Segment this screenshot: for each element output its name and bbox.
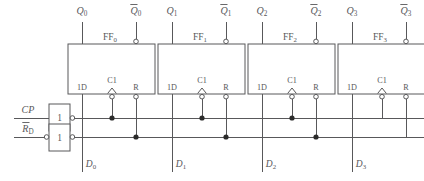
clk-bubble-2 <box>290 94 295 99</box>
pin-label-d-2: 1D <box>257 83 267 92</box>
clk-bubble-0 <box>110 94 115 99</box>
base: FF <box>283 32 294 42</box>
q-label-0: Q0 <box>77 5 88 18</box>
data-label-1-text: D1 <box>175 159 186 170</box>
subscript: 2 <box>264 10 268 18</box>
reset-bubble-1 <box>224 94 229 99</box>
flipflop-name-3-text: FF3 <box>373 32 388 43</box>
subscript: 2 <box>294 36 298 43</box>
qbar-label-2: Q2 <box>310 5 322 19</box>
qbar-bubble-3 <box>404 39 409 44</box>
q-label-1-text: Q1 <box>167 5 178 18</box>
pin-label-r-1: R <box>223 83 229 92</box>
qbar-label-1-text: Q1 <box>221 5 232 18</box>
base: D <box>175 159 183 169</box>
pin-label-clk-0: C1 <box>107 76 117 85</box>
subscript: 3 <box>354 10 358 18</box>
subscript: 1 <box>174 10 178 18</box>
subscript: 1 <box>204 36 207 43</box>
flipflop-name-3: FF3 <box>373 32 388 43</box>
flipflop-name-1-text: FF1 <box>193 32 207 43</box>
qbar-label-3-text: Q3 <box>401 5 412 18</box>
qbar-label-3: Q3 <box>400 5 412 19</box>
clock-input-label: CP <box>22 104 35 115</box>
clock-buffer-output-bubble <box>70 116 75 121</box>
clk-junction-0 <box>109 115 114 120</box>
flipflop-name-2-text: FF2 <box>283 32 298 43</box>
data-label-2: D2 <box>265 159 277 170</box>
gate-label-clock-buffer: 1 <box>57 113 62 123</box>
pin-label-r-2: R <box>313 83 319 92</box>
qbar-label-0-text: Q0 <box>131 5 142 18</box>
reset-bubble-0 <box>134 94 139 99</box>
gate-label-reset-buffer: 1 <box>57 133 62 143</box>
base: FF <box>193 32 204 42</box>
subscript: 1 <box>183 163 186 170</box>
reset-bubble-2 <box>314 94 319 99</box>
flipflop-name-2: FF2 <box>283 32 298 43</box>
base: D <box>85 159 93 169</box>
flipflop-name-1: FF1 <box>193 32 207 43</box>
clock-input-label-text: CP <box>22 104 35 115</box>
data-label-0-text: D0 <box>85 159 97 170</box>
base: FF <box>103 32 114 42</box>
data-label-2-text: D2 <box>265 159 277 170</box>
reset-input-label-text: RD <box>21 123 33 136</box>
reset-input-label: RD <box>21 123 33 137</box>
subscript: 0 <box>114 36 118 43</box>
qbar-bubble-0 <box>134 39 139 44</box>
clk-bubble-1 <box>200 94 205 99</box>
q-label-1: Q1 <box>167 5 178 18</box>
subscript: 0 <box>93 163 97 170</box>
base: D <box>355 159 363 169</box>
subscript: 2 <box>273 163 277 170</box>
qbar-label-0: Q0 <box>130 5 142 19</box>
reset-junction-0 <box>133 134 138 139</box>
subscript: 3 <box>384 36 388 43</box>
subscript: 3 <box>408 10 412 18</box>
subscript: 0 <box>84 10 88 18</box>
qbar-bubble-1 <box>224 39 229 44</box>
base: CP <box>22 104 35 115</box>
qbar-label-1: Q1 <box>220 5 232 19</box>
reset-junction-2 <box>313 134 318 139</box>
clk-junction-2 <box>289 115 294 120</box>
subscript: 0 <box>138 10 142 18</box>
qbar-bubble-2 <box>314 39 319 44</box>
junction-layer <box>109 115 318 139</box>
pin-label-d-3: 1D <box>347 83 357 92</box>
clk-bubble-3 <box>380 94 385 99</box>
reset-buffer-input-bubble <box>44 135 49 140</box>
data-label-3: D3 <box>355 159 367 170</box>
reset-buffer-output-bubble <box>70 135 75 140</box>
pin-label-d-0: 1D <box>77 83 87 92</box>
circuit-diagram: Q0Q0FF01DC1RD0Q1Q1FF11DC1RD1Q2Q2FF21DC1R… <box>0 0 424 181</box>
pin-label-clk-2: C1 <box>287 76 297 85</box>
q-label-2-text: Q2 <box>257 5 268 18</box>
pin-label-clk-1: C1 <box>197 76 207 85</box>
pin-label-clk-3: C1 <box>377 76 387 85</box>
flipflop-name-0-text: FF0 <box>103 32 118 43</box>
data-label-3-text: D3 <box>355 159 367 170</box>
reset-junction-1 <box>223 134 228 139</box>
pin-label-d-1: 1D <box>167 83 177 92</box>
base: R <box>21 123 28 134</box>
schematic-canvas: Q0Q0FF01DC1RD0Q1Q1FF11DC1RD1Q2Q2FF21DC1R… <box>0 0 424 181</box>
component-layer <box>49 44 424 151</box>
subscript: 3 <box>363 163 367 170</box>
subscript: 2 <box>318 10 322 18</box>
base: D <box>265 159 273 169</box>
subscript: D <box>28 128 33 136</box>
subscript: 1 <box>228 10 232 18</box>
pin-label-r-0: R <box>133 83 139 92</box>
data-label-1: D1 <box>175 159 186 170</box>
q-label-2: Q2 <box>257 5 268 18</box>
pin-label-r-3: R <box>403 83 409 92</box>
q-label-3: Q3 <box>347 5 358 18</box>
base: FF <box>373 32 384 42</box>
flipflop-name-0: FF0 <box>103 32 118 43</box>
q-label-0-text: Q0 <box>77 5 88 18</box>
reset-bubble-3 <box>404 94 409 99</box>
data-label-0: D0 <box>85 159 97 170</box>
q-label-3-text: Q3 <box>347 5 358 18</box>
